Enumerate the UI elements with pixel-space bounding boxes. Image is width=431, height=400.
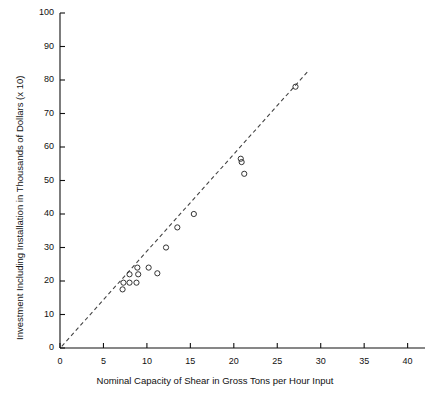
data-point-marker [127, 280, 132, 285]
data-points [120, 84, 298, 292]
data-point-marker [134, 280, 139, 285]
y-tick-label: 80 [28, 74, 54, 84]
y-tick-label: 100 [28, 7, 54, 17]
y-tick-label: 60 [28, 141, 54, 151]
data-point-marker [155, 271, 160, 276]
x-tick-label: 40 [393, 356, 423, 366]
scatter-chart-figure: Investment Including Installation in Tho… [0, 0, 431, 400]
data-point-marker [146, 265, 151, 270]
data-point-marker [121, 280, 126, 285]
y-tick-label: 50 [28, 175, 54, 185]
data-point-marker [163, 245, 168, 250]
x-tick-label: 35 [349, 356, 379, 366]
y-tick-label: 30 [28, 242, 54, 252]
y-tick-label: 90 [28, 41, 54, 51]
data-point-marker [135, 265, 140, 270]
x-tick-label: 30 [306, 356, 336, 366]
y-tick-label: 70 [28, 108, 54, 118]
x-axis-label: Nominal Capacity of Shear in Gross Tons … [60, 375, 370, 386]
x-axis-ticks [60, 343, 408, 348]
y-tick-label: 40 [28, 208, 54, 218]
data-point-marker [242, 171, 247, 176]
y-tick-label: 0 [28, 342, 54, 352]
plot-canvas [0, 0, 431, 400]
data-point-marker [136, 272, 141, 277]
x-tick-label: 25 [262, 356, 292, 366]
x-tick-label: 10 [132, 356, 162, 366]
y-axis-label: Investment Including Installation in Tho… [14, 76, 25, 340]
data-point-marker [120, 287, 125, 292]
data-point-marker [175, 225, 180, 230]
x-tick-label: 20 [219, 356, 249, 366]
y-tick-label: 10 [28, 309, 54, 319]
trend-line [62, 72, 308, 347]
data-point-marker [127, 272, 132, 277]
data-point-marker [191, 211, 196, 216]
data-point-marker [239, 159, 244, 164]
y-axis-ticks [60, 13, 65, 348]
x-tick-label: 5 [88, 356, 118, 366]
x-tick-label: 15 [175, 356, 205, 366]
x-tick-label: 0 [45, 356, 75, 366]
y-tick-label: 20 [28, 275, 54, 285]
